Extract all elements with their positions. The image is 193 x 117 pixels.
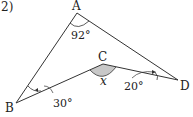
problem-number: 2) (1, 0, 13, 14)
angle-label-x: x (100, 74, 107, 88)
angle-label-B: 30° (53, 97, 73, 110)
vertex-label-A: A (71, 0, 81, 13)
angle-D-arc (155, 72, 158, 80)
angle-B-arc (28, 86, 41, 91)
vertex-label-D: D (180, 79, 190, 93)
vertex-label-B: B (5, 101, 14, 115)
angle-label-A: 92° (71, 29, 91, 42)
vertex-label-C: C (98, 50, 107, 64)
angle-label-D: 20° (124, 80, 144, 93)
geometry-figure: 2) A B C D 92° 30° 20° x (0, 0, 193, 117)
angle-A-arc (70, 21, 89, 27)
angle-B-arrowhead (35, 88, 38, 92)
angle-D-arrowhead (152, 70, 156, 74)
